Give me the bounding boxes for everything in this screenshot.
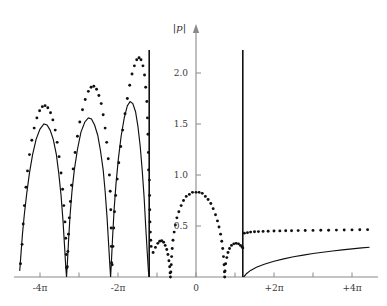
- dotted-curve-dot: [92, 85, 95, 88]
- dotted-curve-dot: [212, 207, 215, 210]
- dotted-curve-dot: [290, 229, 293, 232]
- dotted-curve-dot: [278, 229, 281, 232]
- dotted-curve-dot: [35, 116, 38, 119]
- dotted-curve-dot: [148, 208, 151, 211]
- dotted-curve-dot: [209, 202, 212, 205]
- dotted-curve-dot: [225, 256, 228, 259]
- x-axis-tick-label: +2π: [264, 283, 283, 293]
- dotted-curve-dot: [69, 200, 72, 203]
- dotted-curve-dot: [182, 199, 185, 202]
- dotted-curve-dot: [170, 255, 173, 258]
- dotted-curve-dot: [221, 247, 224, 250]
- chart-figure: -4π-2π0+2π+4π0.51.01.52.0|p|: [0, 0, 387, 306]
- dotted-curve-dot: [312, 229, 315, 232]
- dotted-curve-dot: [165, 248, 168, 251]
- dotted-curve-dot: [110, 227, 113, 230]
- dotted-curve-dot: [104, 127, 107, 130]
- dotted-curve-dot: [111, 245, 114, 248]
- dotted-curve-dot: [44, 104, 47, 107]
- dotted-curve-dot: [228, 247, 231, 250]
- dotted-curve-dot: [304, 229, 307, 232]
- dotted-curve-dot: [170, 263, 173, 266]
- labels-group: -4π-2π0+2π+4π0.51.01.52.0|p|: [33, 22, 362, 293]
- dotted-curve-dot: [128, 84, 131, 87]
- dotted-curve-dot: [149, 239, 152, 242]
- dotted-curve-dot: [133, 64, 136, 67]
- plot-canvas: -4π-2π0+2π+4π0.51.01.52.0|p|: [0, 0, 387, 306]
- dotted-curve-dot: [166, 253, 169, 256]
- dotted-curve-dot: [219, 233, 222, 236]
- dotted-curve-dot: [84, 98, 87, 101]
- dotted-curve-dot: [207, 198, 210, 201]
- dotted-curve-dot: [112, 227, 115, 230]
- dotted-curve-dot: [327, 229, 330, 232]
- dotted-curve-dot: [172, 239, 175, 242]
- dotted-curve-dot: [253, 230, 256, 233]
- dotted-curve-dot: [222, 255, 225, 258]
- dotted-curve-dot: [41, 105, 44, 108]
- dotted-curve-dot: [111, 263, 114, 266]
- dotted-curve-dot: [21, 243, 24, 246]
- dotted-curve-dot: [140, 58, 143, 61]
- dotted-curve-dot: [117, 161, 120, 164]
- dotted-curve-dot: [249, 231, 252, 234]
- dotted-curve-dot: [142, 64, 145, 67]
- dotted-curve-dot: [195, 191, 198, 194]
- dotted-curve-dot: [108, 174, 111, 177]
- y-axis-tick-label: 0.5: [174, 221, 189, 231]
- dotted-curve-dot: [62, 204, 65, 207]
- dotted-curve-dot: [224, 269, 227, 272]
- dotted-curve-dot: [167, 259, 170, 262]
- y-axis-tick-label: 2.0: [174, 68, 189, 78]
- dotted-curve-dot: [30, 139, 33, 142]
- dotted-curve-dot: [113, 210, 116, 213]
- dotted-curve-dot: [105, 141, 108, 144]
- dotted-curve-dot: [124, 112, 127, 115]
- dotted-curve-dot: [319, 229, 322, 232]
- dotted-curve-dot: [273, 230, 276, 233]
- dotted-curve-dot: [70, 184, 73, 187]
- dotted-curve-dot: [180, 204, 183, 207]
- dotted-curve-dot: [149, 220, 152, 223]
- dotted-curve-dot: [143, 74, 146, 77]
- y-axis-arrow-icon: [193, 24, 199, 33]
- dotted-curve-dot: [100, 102, 103, 105]
- dotted-curve-dot: [25, 186, 28, 189]
- dotted-curve-dot: [147, 133, 150, 136]
- x-axis-tick-label: -2π: [111, 283, 126, 293]
- dotted-curve-dot: [243, 232, 246, 235]
- dotted-curve-dot: [49, 111, 52, 114]
- dotted-curve-dot: [51, 118, 54, 121]
- dotted-curve-dot: [87, 90, 90, 93]
- dotted-curve-dot: [171, 247, 174, 250]
- dotted-curve-dot: [68, 216, 71, 219]
- dotted-curve-dot: [126, 97, 129, 100]
- dotted-curve-dot: [144, 86, 147, 89]
- dotted-curve-dot: [72, 167, 75, 170]
- dotted-curve-dot: [46, 106, 49, 109]
- dotted-curve-dot: [121, 129, 124, 132]
- dotted-curve-dot: [66, 250, 69, 253]
- dotted-curve-dot: [198, 191, 201, 194]
- dotted-curve-dot: [335, 229, 338, 232]
- dotted-curve-dot: [147, 151, 150, 154]
- solid-curve-path: [20, 102, 149, 277]
- y-axis-tick-label: 1.5: [174, 119, 189, 129]
- dotted-curve-dot: [23, 204, 26, 207]
- dotted-curve-dot: [214, 213, 217, 216]
- dotted-curve-dot: [169, 276, 172, 279]
- dotted-curve-dot: [148, 194, 151, 197]
- x-axis-tick-label: 0: [193, 283, 199, 293]
- dotted-curve-dot: [146, 116, 149, 119]
- dotted-curve-dot: [64, 220, 67, 223]
- dotted-curve-dot: [201, 192, 204, 195]
- dotted-curve-dot: [102, 113, 105, 116]
- curves-group: [19, 50, 370, 278]
- dotted-curve-dot: [22, 223, 25, 226]
- dotted-curve-dot: [366, 228, 369, 231]
- dotted-curve-dot: [241, 246, 244, 249]
- dotted-curve-dot: [65, 253, 68, 256]
- dotted-curve-dot: [267, 230, 270, 233]
- dotted-curve-dot: [19, 262, 22, 265]
- dotted-curve-dot: [145, 100, 148, 103]
